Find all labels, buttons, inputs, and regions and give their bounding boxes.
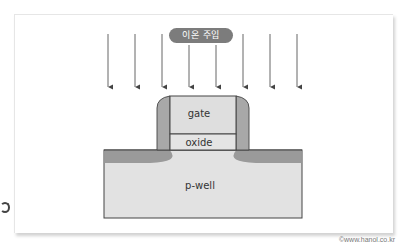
copyright-text: ©www.hanol.co.kr xyxy=(339,236,395,243)
oxide-label: oxide xyxy=(167,137,231,148)
p-well-label: p-well xyxy=(150,180,250,191)
right-spacer xyxy=(236,96,249,150)
gate-label: gate xyxy=(167,108,231,119)
ion-implantation-label: 이온 주입 xyxy=(169,28,233,43)
side-marker-icon xyxy=(0,202,10,213)
source-doped-region xyxy=(105,151,173,164)
drain-doped-region xyxy=(234,151,302,164)
